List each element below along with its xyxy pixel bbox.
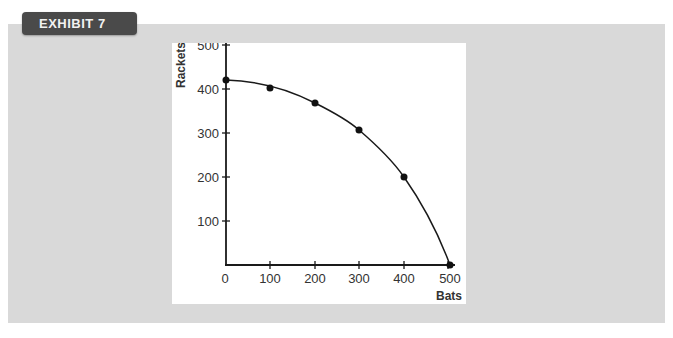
- y-tick-label: 500: [197, 43, 219, 53]
- x-tick-label: 400: [393, 271, 415, 286]
- x-axis-label: Bats: [436, 289, 462, 303]
- exhibit-label: EXHIBIT 7: [22, 12, 137, 35]
- ppf-curve: [226, 80, 450, 265]
- y-tick-labels: 500 400 300 200 100: [197, 43, 219, 229]
- x-tick-label: 200: [304, 271, 326, 286]
- data-point: [312, 100, 319, 107]
- y-tick-label: 200: [197, 170, 219, 185]
- y-tick-label: 400: [197, 82, 219, 97]
- data-point: [356, 127, 363, 134]
- x-tick-label: 0: [221, 271, 228, 286]
- y-tick-label: 100: [197, 214, 219, 229]
- y-axis-label: Rackets: [174, 43, 188, 88]
- data-point: [223, 77, 230, 84]
- data-points: [223, 77, 454, 269]
- chart-panel: 500 400 300 200 100 0 100 200 300 400 50…: [172, 43, 466, 304]
- exhibit-title: EXHIBIT 7: [39, 16, 106, 31]
- data-point: [447, 262, 454, 269]
- x-tick-label: 100: [259, 271, 281, 286]
- y-tick-label: 300: [197, 126, 219, 141]
- ppf-chart: 500 400 300 200 100 0 100 200 300 400 50…: [172, 43, 466, 304]
- data-point: [401, 174, 408, 181]
- x-tick-label: 300: [348, 271, 370, 286]
- x-tick-label: 500: [439, 271, 461, 286]
- x-tick-labels: 0 100 200 300 400 500: [221, 271, 460, 286]
- data-point: [267, 85, 274, 92]
